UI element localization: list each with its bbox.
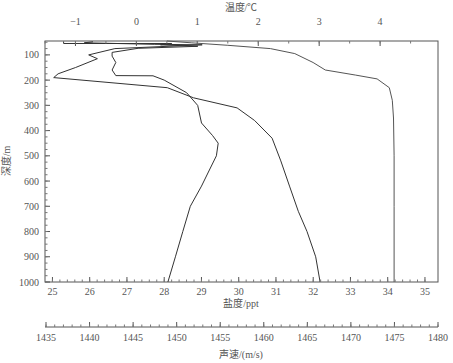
salinity-tick-label: 28 (159, 286, 169, 297)
plot-frame (45, 41, 438, 282)
temperature-tick-label: 4 (378, 16, 383, 27)
temperature-tick-label: 2 (256, 16, 261, 27)
sound-speed-axis-title: 声速/(m/s) (219, 348, 263, 361)
sound-speed-tick-label: 1480 (428, 332, 448, 343)
depth-tick-label: 800 (24, 226, 39, 237)
salinity-tick-label: 25 (47, 286, 57, 297)
depth-tick-label: 1000 (19, 277, 39, 288)
temperature-tick-label: 3 (317, 16, 322, 27)
depth-tick-label: 900 (24, 251, 39, 262)
depth-profile-chart: 1002003004005006007008009001000 −101234 … (0, 0, 453, 363)
depth-axis-title: 深度/m (0, 146, 12, 177)
salinity-tick-label: 32 (308, 286, 318, 297)
temperature-tick-label: 1 (195, 16, 200, 27)
salinity-tick-label: 34 (383, 286, 393, 297)
sound-speed-tick-label: 1445 (123, 332, 143, 343)
depth-tick-label: 100 (24, 49, 39, 60)
depth-tick-label: 600 (24, 176, 39, 187)
salinity-tick-label: 31 (271, 286, 281, 297)
series-layer (54, 41, 394, 282)
salinity-tick-label: 30 (234, 286, 244, 297)
sound-speed-tick-label: 1440 (80, 332, 100, 343)
sound-speed-axis: 1435144014451450145514601465147014751480 (36, 322, 448, 343)
salinity-tick-label: 26 (85, 286, 95, 297)
temperature-tick-label: −1 (70, 16, 81, 27)
depth-tick-label: 200 (24, 75, 39, 86)
depth-tick-label: 700 (24, 201, 39, 212)
depth-tick-label: 400 (24, 125, 39, 136)
temperature-tick-label: 0 (134, 16, 139, 27)
salinity-axis: 2526272829303132333435 (47, 277, 430, 297)
temperature-axis-title: 温度/℃ (225, 1, 258, 13)
salinity-tick-label: 29 (196, 286, 206, 297)
sound-speed-tick-label: 1465 (297, 332, 317, 343)
salinity-axis-title: 盐度/ppt (223, 297, 259, 309)
depth-tick-label: 300 (24, 100, 39, 111)
sound-speed-tick-label: 1475 (384, 332, 404, 343)
salinity-tick-label: 35 (420, 286, 430, 297)
salinity-tick-label: 27 (122, 286, 132, 297)
sound-speed-tick-label: 1455 (210, 332, 230, 343)
sound-speed-tick-label: 1460 (254, 332, 274, 343)
series-sound_speed-line (54, 42, 320, 282)
sound-speed-tick-label: 1450 (167, 332, 187, 343)
sound-speed-tick-label: 1470 (341, 332, 361, 343)
depth-tick-label: 500 (24, 150, 39, 161)
sound-speed-tick-label: 1435 (36, 332, 56, 343)
salinity-tick-label: 33 (345, 286, 355, 297)
series-salinity-line (64, 42, 219, 283)
